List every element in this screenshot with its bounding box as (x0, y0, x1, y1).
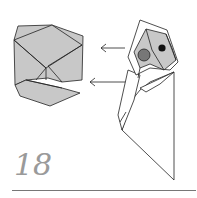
eye-black-icon (158, 44, 165, 51)
eye-gray-icon (138, 49, 150, 61)
lower-view-arrow (90, 78, 126, 86)
divider-rule (12, 190, 196, 191)
step-number: 18 (14, 150, 52, 180)
upper-view-arrow (101, 44, 125, 52)
bird-figure (118, 20, 178, 180)
head-detail-view (14, 25, 83, 106)
